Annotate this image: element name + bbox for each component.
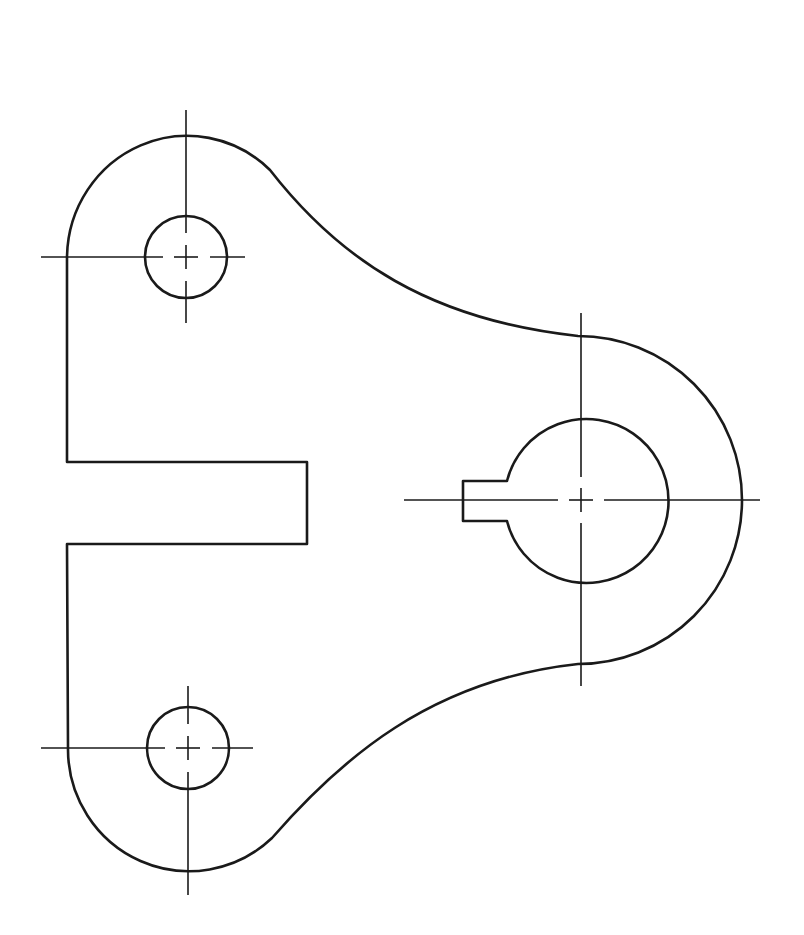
top-hole-centerlines xyxy=(41,110,245,323)
keyed-bore xyxy=(463,419,669,583)
hub-centerlines xyxy=(404,313,760,686)
part-outline xyxy=(67,136,742,871)
technical-drawing xyxy=(0,0,804,935)
